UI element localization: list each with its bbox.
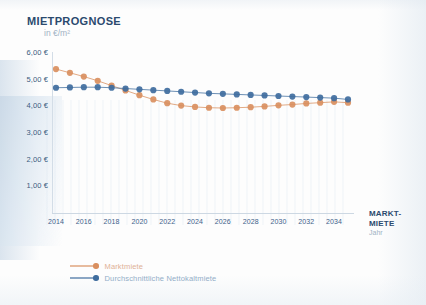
series-point xyxy=(206,90,212,96)
y-axis-labels: 6,00 €5,00 €4,00 €3,00 €2,00 €1,00 € xyxy=(0,52,48,214)
series-point xyxy=(53,66,59,72)
series-point xyxy=(192,104,198,110)
series-point xyxy=(248,104,254,110)
series-point xyxy=(234,105,240,111)
series-point xyxy=(136,86,142,92)
x-axis-tick-label: 2026 xyxy=(215,218,231,225)
series-point xyxy=(122,85,128,91)
y-axis-tick-label: 3,00 € xyxy=(27,128,48,137)
markt-miete-label: MARKT- MIETE xyxy=(369,209,401,228)
series-point xyxy=(303,100,309,106)
page-title: MIETPROGNOSE xyxy=(27,15,121,27)
chart-legend: MarktmieteDurchschnittliche Nettokaltmie… xyxy=(70,260,216,284)
chart-page: MIETPROGNOSE in €/m² 6,00 €5,00 €4,00 €3… xyxy=(0,0,426,305)
series-point xyxy=(53,85,59,91)
series-point xyxy=(67,84,73,90)
series-point xyxy=(109,85,115,91)
series-point xyxy=(248,92,254,98)
series-point xyxy=(345,96,351,102)
series-point xyxy=(261,92,267,98)
markt-miete-line1: MARKT- xyxy=(369,209,401,219)
series-point xyxy=(289,93,295,99)
series-point xyxy=(261,103,267,109)
series-point xyxy=(317,95,323,101)
series-point xyxy=(275,102,281,108)
markt-miete-line2: MIETE xyxy=(369,219,401,229)
y-axis-tick-label: 5,00 € xyxy=(27,74,48,83)
x-axis-tick-label: 2014 xyxy=(48,218,64,225)
paper-wash-right xyxy=(378,0,426,305)
x-axis-tick-label: 2020 xyxy=(131,218,147,225)
x-axis-tick-label: 2024 xyxy=(187,218,203,225)
x-axis-name: Jahr xyxy=(369,229,383,236)
x-axis-tick-label: 2018 xyxy=(104,218,120,225)
series-point xyxy=(289,101,295,107)
series-point xyxy=(164,100,170,106)
y-axis-tick-label: 6,00 € xyxy=(27,48,48,57)
x-axis-tick-label: 2034 xyxy=(326,218,342,225)
series-point xyxy=(150,96,156,102)
legend-label: Durchschnittliche Nettokaltmiete xyxy=(105,274,217,283)
legend-item[interactable]: Marktmiete xyxy=(70,260,216,272)
series-point xyxy=(275,93,281,99)
plot-area xyxy=(52,52,352,212)
legend-line xyxy=(70,265,96,266)
series-point xyxy=(136,92,142,98)
series-point xyxy=(234,91,240,97)
x-axis-labels: 2014201620182020202220242026202820302032… xyxy=(52,213,354,233)
series-layer xyxy=(52,52,352,212)
series-point xyxy=(220,91,226,97)
x-axis-tick-label: 2028 xyxy=(243,218,259,225)
series-point xyxy=(178,103,184,109)
y-axis-tick-label: 2,00 € xyxy=(27,154,48,163)
series-point xyxy=(331,95,337,101)
series-point xyxy=(220,105,226,111)
series-point xyxy=(150,87,156,93)
series-point xyxy=(67,70,73,76)
series-point xyxy=(178,89,184,95)
series-point xyxy=(206,105,212,111)
y-axis-tick-label: 4,00 € xyxy=(27,101,48,110)
paper-edge-top xyxy=(0,0,426,10)
series-point xyxy=(192,89,198,95)
legend-label: Marktmiete xyxy=(105,262,144,271)
series-point xyxy=(81,84,87,90)
page-subtitle: in €/m² xyxy=(44,28,70,38)
legend-item[interactable]: Durchschnittliche Nettokaltmiete xyxy=(70,272,216,284)
series-point xyxy=(95,84,101,90)
series-point xyxy=(164,88,170,94)
x-axis-tick-label: 2016 xyxy=(76,218,92,225)
legend-line xyxy=(70,277,96,278)
y-axis-tick-label: 1,00 € xyxy=(27,181,48,190)
x-axis-tick-label: 2022 xyxy=(159,218,175,225)
series-point xyxy=(303,94,309,100)
x-axis-tick-label: 2032 xyxy=(298,218,314,225)
series-point xyxy=(81,73,87,79)
x-axis-tick-label: 2030 xyxy=(270,218,286,225)
series-point xyxy=(95,78,101,84)
